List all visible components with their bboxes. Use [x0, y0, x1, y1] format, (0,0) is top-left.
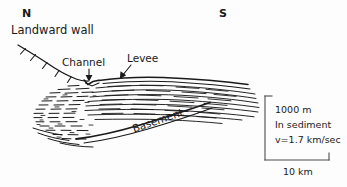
compass-label-south: S: [219, 8, 227, 19]
seismic-cross-section-figure: N S Landward wall Channel Levee Basement…: [0, 0, 347, 187]
compass-label-north: N: [22, 8, 31, 19]
annotation-channel: Channel: [62, 57, 105, 68]
scale-velocity-note: v=1.7 km/sec: [275, 135, 341, 145]
scale-vertical-value: 1000 m: [275, 105, 311, 115]
annotation-landward-wall: Landward wall: [11, 25, 94, 37]
scale-medium-note: In sediment: [275, 120, 331, 130]
annotation-levee: Levee: [127, 53, 158, 64]
scale-horizontal-value: 10 km: [283, 167, 313, 177]
levee-seafloor-surface: [99, 77, 250, 89]
